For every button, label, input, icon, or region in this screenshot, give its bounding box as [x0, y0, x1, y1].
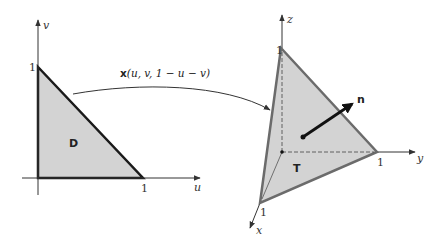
z-axis-label: z	[286, 13, 293, 26]
mapping: x(u, v, 1 − u − v)	[73, 67, 270, 110]
x-axis-label: x	[256, 224, 263, 237]
x-tick-one: 1	[260, 206, 267, 219]
normal-base-point	[301, 135, 306, 140]
y-axis-label: y	[416, 152, 424, 165]
origin-point	[280, 150, 284, 154]
v-tick-one: 1	[29, 61, 36, 74]
u-axis-label: u	[194, 181, 201, 194]
y-tick-one: 1	[377, 156, 384, 169]
region-d-label: D	[69, 137, 78, 150]
mapping-arrow	[73, 87, 270, 110]
surface-t-label: T	[293, 162, 301, 175]
v-axis-label: v	[43, 19, 50, 32]
region-d	[38, 67, 143, 178]
surface-diagram: z y x 1 1 1 n T	[250, 13, 424, 237]
surface-mapping-diagram: v u 1 1 D x(u, v, 1 − u − v) z y x 1 1 1	[0, 0, 439, 247]
z-tick-one: 1	[276, 44, 283, 57]
u-tick-one: 1	[141, 182, 148, 195]
domain-diagram: v u 1 1 D	[22, 19, 201, 195]
mapping-formula: x(u, v, 1 − u − v)	[120, 67, 210, 79]
normal-label: n	[357, 93, 365, 106]
